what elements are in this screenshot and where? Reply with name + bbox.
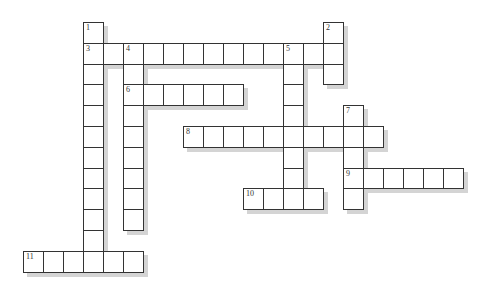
crossword-cell[interactable] — [443, 168, 464, 190]
crossword-cell[interactable]: 11 — [23, 251, 44, 273]
crossword-cell[interactable] — [103, 251, 124, 273]
crossword-cell[interactable] — [123, 251, 144, 273]
crossword-cell[interactable] — [183, 84, 204, 106]
crossword-cell[interactable] — [283, 126, 304, 148]
clue-number: 3 — [86, 44, 90, 53]
crossword-cell[interactable] — [83, 64, 104, 86]
crossword-cell[interactable]: 5 — [283, 43, 304, 65]
clue-number: 2 — [326, 23, 330, 32]
clue-number: 7 — [346, 106, 350, 115]
crossword-cell[interactable] — [283, 84, 304, 106]
crossword-cell[interactable] — [423, 168, 444, 190]
clue-number: 6 — [126, 85, 130, 94]
crossword-cell[interactable] — [283, 168, 304, 190]
crossword-cell[interactable] — [123, 168, 144, 190]
clue-number: 5 — [286, 44, 290, 53]
crossword-cell[interactable] — [223, 126, 244, 148]
crossword-cell[interactable] — [323, 43, 344, 65]
crossword-cell[interactable] — [143, 43, 164, 65]
crossword-cell[interactable] — [83, 84, 104, 106]
crossword-cell[interactable] — [383, 168, 404, 190]
crossword-cell[interactable] — [123, 105, 144, 127]
crossword-cell[interactable] — [283, 64, 304, 86]
crossword-cell[interactable] — [303, 43, 324, 65]
crossword-cell[interactable]: 2 — [323, 22, 344, 44]
crossword-cell[interactable] — [343, 188, 364, 210]
crossword-cell[interactable] — [183, 43, 204, 65]
crossword-cell[interactable] — [103, 43, 124, 65]
crossword-cell[interactable] — [83, 230, 104, 252]
crossword-cell[interactable] — [223, 43, 244, 65]
clue-number: 8 — [186, 127, 190, 136]
crossword-cell[interactable] — [263, 188, 284, 210]
crossword-cell[interactable] — [43, 251, 64, 273]
crossword-cell[interactable] — [283, 188, 304, 210]
crossword-cell[interactable] — [163, 84, 184, 106]
crossword-cell[interactable]: 1 — [83, 22, 104, 44]
crossword-cell[interactable] — [343, 126, 364, 148]
clue-number: 4 — [126, 44, 130, 53]
crossword-cell[interactable] — [123, 64, 144, 86]
clue-number: 9 — [346, 169, 350, 178]
crossword-cell[interactable] — [83, 105, 104, 127]
crossword-cell[interactable] — [323, 64, 344, 86]
crossword-cell[interactable]: 9 — [343, 168, 364, 190]
crossword-cell[interactable] — [323, 126, 344, 148]
crossword-cell[interactable] — [123, 126, 144, 148]
crossword-cell[interactable] — [223, 84, 244, 106]
crossword-cell[interactable] — [283, 105, 304, 127]
clue-number: 11 — [26, 252, 34, 261]
crossword-cell[interactable] — [83, 168, 104, 190]
crossword-cell[interactable]: 6 — [123, 84, 144, 106]
crossword-cell[interactable] — [83, 126, 104, 148]
crossword-cell[interactable] — [343, 147, 364, 169]
crossword-cell[interactable] — [263, 126, 284, 148]
crossword-cell[interactable] — [203, 43, 224, 65]
crossword-cell[interactable] — [363, 126, 384, 148]
clue-number: 1 — [86, 23, 90, 32]
crossword-grid: 1324567981011 — [0, 0, 482, 289]
crossword-cell[interactable] — [83, 251, 104, 273]
crossword-cell[interactable]: 7 — [343, 105, 364, 127]
crossword-cell[interactable] — [163, 43, 184, 65]
crossword-cell[interactable]: 4 — [123, 43, 144, 65]
crossword-cell[interactable] — [203, 84, 224, 106]
crossword-cell[interactable] — [403, 168, 424, 190]
crossword-cell[interactable] — [123, 209, 144, 231]
crossword-cell[interactable]: 10 — [243, 188, 264, 210]
crossword-cell[interactable] — [363, 168, 384, 190]
crossword-cell[interactable] — [303, 126, 324, 148]
crossword-cell[interactable]: 3 — [83, 43, 104, 65]
crossword-cell[interactable] — [263, 43, 284, 65]
crossword-cell[interactable] — [63, 251, 84, 273]
crossword-cell[interactable] — [243, 43, 264, 65]
crossword-cell[interactable] — [83, 209, 104, 231]
crossword-cell[interactable] — [123, 188, 144, 210]
crossword-cell[interactable] — [123, 147, 144, 169]
crossword-cell[interactable] — [243, 126, 264, 148]
crossword-cell[interactable]: 8 — [183, 126, 204, 148]
crossword-cell[interactable] — [143, 84, 164, 106]
crossword-cell[interactable] — [303, 188, 324, 210]
crossword-cell[interactable] — [203, 126, 224, 148]
crossword-cell[interactable] — [283, 147, 304, 169]
crossword-cell[interactable] — [83, 188, 104, 210]
crossword-cell[interactable] — [83, 147, 104, 169]
clue-number: 10 — [246, 189, 254, 198]
